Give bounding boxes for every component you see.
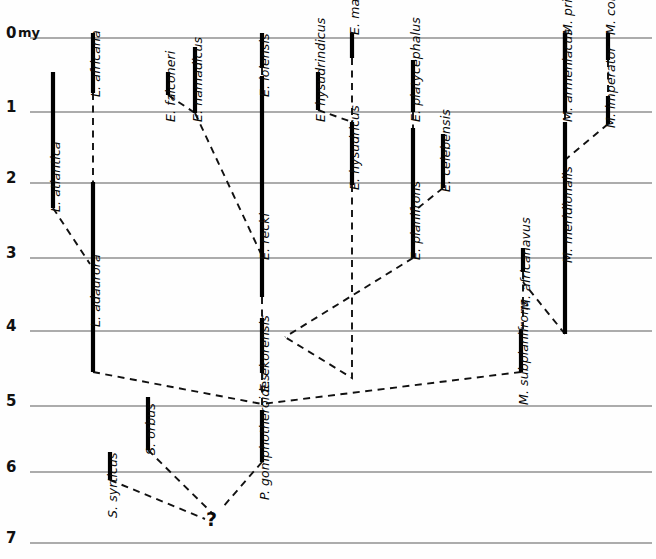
taxon-label-l-atlantica: L. atlantica: [48, 141, 63, 212]
taxon-label-e-falconeri: E. falconeri: [163, 51, 178, 122]
phylogeny-figure: 0my1234567 L. atlanticaL. africanaL. ada…: [0, 0, 656, 559]
taxon-label-e-planifrons: E. planifrons: [408, 181, 423, 260]
taxon-label-m-subplanifrons: M. subplanifrons: [516, 300, 531, 405]
taxon-label-m-columbi: M. columbi: [603, 0, 618, 35]
taxon-label-s-syrticus: S. syrticus: [105, 452, 120, 518]
lineage-link: [285, 258, 413, 337]
tick-label-7my: 7: [6, 529, 16, 547]
tick-label-1my: 1: [6, 98, 16, 116]
taxon-label-p-gomphotheroides: P. gomphotheroides: [257, 374, 272, 500]
taxon-label-m-imperator: M. imperator: [603, 46, 618, 128]
lineage-link: [565, 124, 608, 160]
time-axis-unit: my: [18, 25, 40, 40]
uncertainty-marker: ?: [206, 508, 217, 530]
tick-label-3my: 3: [6, 244, 16, 262]
tick-label-0my: 0: [6, 24, 16, 42]
taxon-label-e-platycephalus: E. platycephalus: [408, 17, 423, 122]
taxon-label-e-maximus: E. maximus: [347, 0, 362, 35]
taxon-label-e-hysudrindicus: E. hysudrindicus: [313, 18, 328, 122]
lineage-link: [93, 372, 262, 404]
time-gridlines: [30, 38, 652, 543]
taxon-label-m-armeniacus: M. armeniacus: [560, 29, 575, 122]
tick-label-6my: 6: [6, 458, 16, 476]
taxon-label-m-africanavus: M. africanavus: [518, 217, 533, 310]
taxon-label-l-africana: L. africana: [88, 30, 103, 97]
lineage-link: [110, 480, 205, 519]
taxon-label-s-orbus: S. orbus: [143, 403, 158, 455]
lineage-link: [195, 113, 262, 256]
lineage-link: [285, 185, 352, 378]
taxon-label-e-namadicus: E. namadicus: [190, 37, 205, 122]
tick-label-4my: 4: [6, 317, 16, 335]
taxon-label-e-celebensis: E. celebensis: [438, 109, 453, 192]
tick-label-2my: 2: [6, 169, 16, 187]
lineage-link: [148, 450, 213, 514]
tick-label-5my: 5: [6, 392, 16, 410]
taxon-label-e-iolensis: E. iolensis: [257, 33, 272, 97]
taxon-label-l-adaurora: L. adaurora: [88, 254, 103, 327]
taxon-label-e-hysudricus: E. hysudricus: [347, 105, 362, 190]
taxon-label-m-meridionalis: M. meridionalis: [560, 166, 575, 263]
lineage-link: [53, 208, 90, 264]
taxon-label-m-primigenius: M. primigenius: [560, 0, 575, 35]
lineage-link: [262, 372, 521, 404]
taxon-label-e-recki: E. recki: [257, 213, 272, 260]
lineage-link: [222, 462, 262, 508]
